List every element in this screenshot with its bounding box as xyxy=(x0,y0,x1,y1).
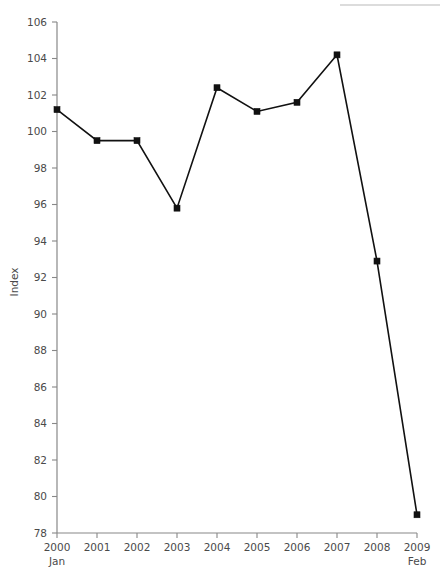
data-point-marker xyxy=(334,52,340,58)
series-line-index xyxy=(57,55,417,515)
x-tick-sublabel: Jan xyxy=(48,555,65,567)
top-rule-decoration xyxy=(340,4,440,6)
y-tick-label: 88 xyxy=(34,344,47,356)
y-tick-label: 104 xyxy=(27,52,47,64)
data-point-marker xyxy=(174,205,180,211)
y-axis-title: Index xyxy=(8,268,20,297)
x-tick-label: 2004 xyxy=(204,541,231,553)
data-point-marker xyxy=(254,108,260,114)
data-series xyxy=(54,52,420,518)
chart-container: 7880828486889092949698100102104106 2000J… xyxy=(0,0,440,584)
data-point-marker xyxy=(294,99,300,105)
line-chart: 7880828486889092949698100102104106 2000J… xyxy=(0,0,440,584)
y-tick-label: 86 xyxy=(34,381,48,393)
x-tick-label: 2005 xyxy=(244,541,271,553)
data-point-marker xyxy=(414,512,420,518)
data-point-marker xyxy=(214,85,220,91)
y-tick-label: 78 xyxy=(34,527,47,539)
data-point-marker xyxy=(54,107,60,113)
y-tick-label: 94 xyxy=(34,235,48,247)
y-tick-label: 98 xyxy=(34,162,47,174)
y-tick-label: 102 xyxy=(27,89,47,101)
x-tick-label: 2009 xyxy=(404,541,431,553)
y-axis: 7880828486889092949698100102104106 xyxy=(27,16,57,539)
data-point-marker xyxy=(374,258,380,264)
x-tick-label: 2000 xyxy=(44,541,71,553)
x-tick-label: 2006 xyxy=(284,541,311,553)
x-tick-label: 2001 xyxy=(84,541,111,553)
data-point-marker xyxy=(134,138,140,144)
y-tick-label: 90 xyxy=(34,308,47,320)
x-tick-label: 2008 xyxy=(364,541,391,553)
x-tick-label: 2002 xyxy=(124,541,151,553)
y-tick-label: 92 xyxy=(34,271,47,283)
y-tick-label: 84 xyxy=(34,417,48,429)
x-tick-sublabel: Feb xyxy=(408,555,427,567)
y-tick-label: 96 xyxy=(34,198,48,210)
y-tick-label: 82 xyxy=(34,454,47,466)
x-axis: 2000Jan200120022003200420052006200720082… xyxy=(44,533,431,567)
data-point-marker xyxy=(94,138,100,144)
x-tick-label: 2003 xyxy=(164,541,191,553)
y-tick-label: 80 xyxy=(34,490,47,502)
y-tick-label: 100 xyxy=(27,125,47,137)
y-tick-label: 106 xyxy=(27,16,47,28)
x-tick-label: 2007 xyxy=(324,541,351,553)
